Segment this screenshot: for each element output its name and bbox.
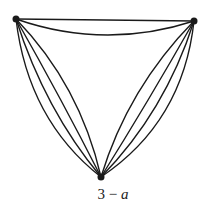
figure-caption: 3 − a — [0, 186, 212, 203]
caption-separator: − — [105, 186, 121, 202]
edge-left-3 — [16, 19, 101, 177]
edge-right-3 — [101, 21, 194, 177]
vertex-top-right — [191, 18, 198, 25]
edge-top-curved — [16, 19, 194, 35]
edge-top-straight — [16, 19, 194, 21]
figure: 3 − a — [0, 0, 212, 216]
vertex-top-left — [13, 16, 20, 23]
caption-letter: a — [121, 186, 129, 202]
multigraph-diagram — [0, 0, 212, 216]
vertex-bottom — [98, 174, 105, 181]
caption-number: 3 — [98, 186, 106, 202]
